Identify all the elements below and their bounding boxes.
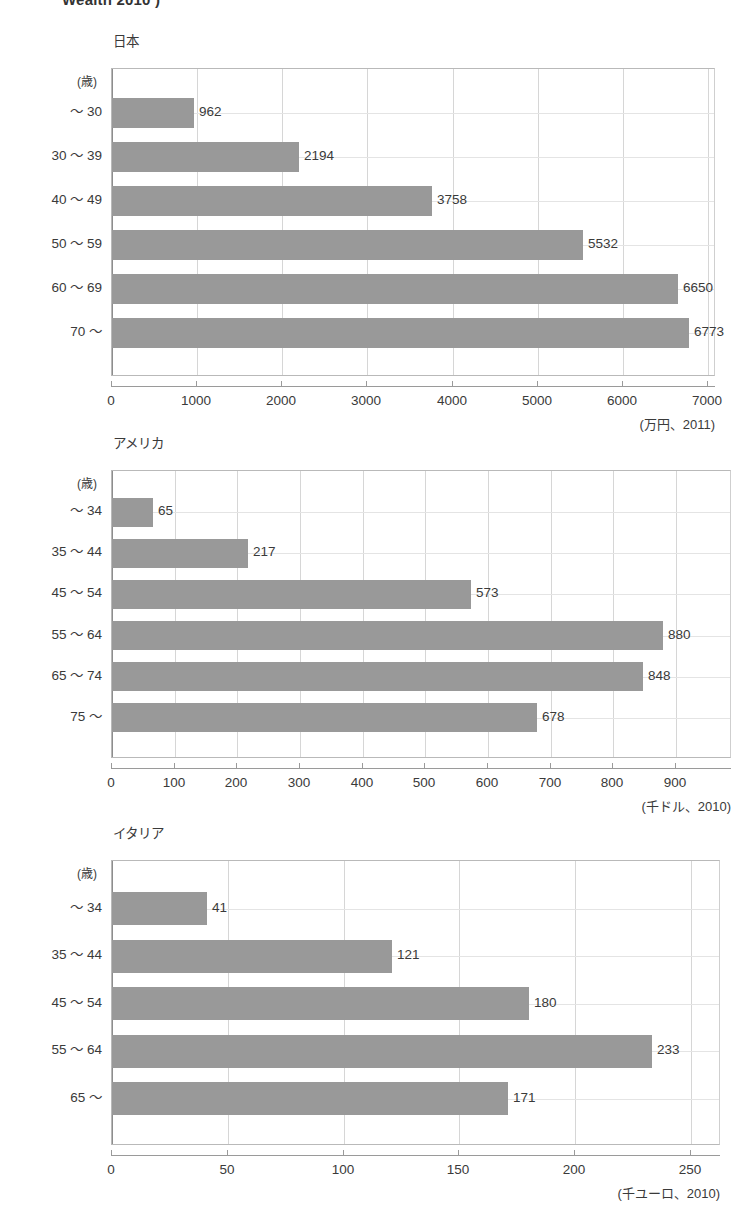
bar bbox=[112, 1082, 508, 1115]
x-axis-tick bbox=[111, 763, 112, 768]
bar-value-label: 217 bbox=[253, 545, 276, 559]
x-axis-tick bbox=[487, 763, 488, 768]
bar bbox=[112, 1035, 652, 1068]
category-label: 45 ～ 54 bbox=[0, 586, 102, 600]
x-axis-tick bbox=[550, 763, 551, 768]
bar bbox=[112, 230, 583, 260]
x-axis-tick bbox=[537, 381, 538, 386]
x-axis-tick bbox=[196, 381, 197, 386]
chart-title: アメリカ bbox=[113, 432, 164, 452]
x-axis-tick-label: 7000 bbox=[667, 394, 741, 408]
x-axis-tick bbox=[675, 763, 676, 768]
bar-value-label: 180 bbox=[534, 996, 557, 1010]
x-axis-tick-label: 100 bbox=[303, 1163, 383, 1177]
bar-value-label: 41 bbox=[212, 901, 227, 915]
category-label: 40 ～ 49 bbox=[0, 193, 102, 207]
x-axis-tick bbox=[236, 763, 237, 768]
category-label: 45 ～ 54 bbox=[0, 996, 102, 1010]
x-axis-tick-label: 150 bbox=[418, 1163, 498, 1177]
x-axis-tick bbox=[424, 763, 425, 768]
bar bbox=[112, 539, 248, 568]
x-axis-tick bbox=[343, 1150, 344, 1155]
bar-value-label: 6773 bbox=[694, 325, 724, 339]
x-axis-tick-label: 50 bbox=[187, 1163, 267, 1177]
page-header-title: Wealth 2010 ) bbox=[62, 0, 160, 8]
category-label: ～ 34 bbox=[0, 901, 102, 915]
category-label: 65 ～ bbox=[0, 1091, 102, 1105]
x-axis-tick bbox=[574, 1150, 575, 1155]
bar-value-label: 678 bbox=[542, 710, 565, 724]
y-axis-unit-label: (歳) bbox=[0, 868, 97, 880]
x-axis-tick bbox=[690, 1150, 691, 1155]
bar bbox=[112, 892, 207, 925]
x-axis-tick bbox=[281, 381, 282, 386]
x-axis-tick bbox=[366, 381, 367, 386]
category-label: ～ 34 bbox=[0, 504, 102, 518]
x-axis-tick-label: 250 bbox=[650, 1163, 730, 1177]
category-label: 65 ～ 74 bbox=[0, 669, 102, 683]
x-axis-tick bbox=[299, 763, 300, 768]
bar-value-label: 880 bbox=[668, 628, 691, 642]
x-axis-line bbox=[111, 1155, 720, 1156]
bar-value-label: 848 bbox=[648, 669, 671, 683]
gridline bbox=[575, 861, 576, 1144]
category-label: 50 ～ 59 bbox=[0, 237, 102, 251]
x-axis-tick bbox=[111, 381, 112, 386]
x-axis-tick-label: 1000 bbox=[156, 394, 236, 408]
bar bbox=[112, 498, 153, 527]
bar-value-label: 962 bbox=[199, 105, 222, 119]
bar-value-label: 6650 bbox=[683, 281, 713, 295]
bar-value-label: 3758 bbox=[437, 193, 467, 207]
gridline bbox=[613, 471, 614, 757]
gridline bbox=[676, 471, 677, 757]
chart-title: イタリア bbox=[113, 822, 164, 842]
x-axis-line bbox=[111, 386, 715, 387]
bar-value-label: 573 bbox=[476, 586, 499, 600]
bar bbox=[112, 274, 678, 304]
x-axis-tick bbox=[612, 763, 613, 768]
x-axis-tick bbox=[227, 1150, 228, 1155]
gridline bbox=[691, 861, 692, 1144]
category-label: 35 ～ 44 bbox=[0, 948, 102, 962]
category-label: 60 ～ 69 bbox=[0, 281, 102, 295]
x-axis-tick-label: 0 bbox=[71, 394, 151, 408]
x-axis-tick-label: 5000 bbox=[497, 394, 577, 408]
bar bbox=[112, 186, 432, 216]
category-label: 70 ～ bbox=[0, 325, 102, 339]
y-axis-unit-label: (歳) bbox=[0, 76, 97, 88]
x-axis-tick-label: 0 bbox=[71, 1163, 151, 1177]
x-axis-tick-label: 6000 bbox=[582, 394, 662, 408]
bar bbox=[112, 318, 689, 348]
bar bbox=[112, 987, 529, 1020]
axis-unit-note: (万円、2011) bbox=[0, 414, 715, 433]
category-label: 30 ～ 39 bbox=[0, 149, 102, 163]
row-gridline bbox=[112, 512, 730, 513]
x-axis-tick bbox=[622, 381, 623, 386]
x-axis-tick bbox=[111, 1150, 112, 1155]
bar bbox=[112, 940, 392, 973]
x-axis-tick bbox=[452, 381, 453, 386]
bar-value-label: 233 bbox=[657, 1043, 680, 1057]
plot-area bbox=[111, 860, 720, 1145]
x-axis-tick bbox=[174, 763, 175, 768]
category-label: 35 ～ 44 bbox=[0, 545, 102, 559]
axis-unit-note: (千ユーロ、2010) bbox=[0, 1183, 720, 1202]
bar bbox=[112, 142, 299, 172]
bar-value-label: 5532 bbox=[588, 237, 618, 251]
x-axis-tick-label: 4000 bbox=[412, 394, 492, 408]
y-axis-unit-label: (歳) bbox=[0, 478, 97, 490]
chart-title: 日本 bbox=[113, 30, 139, 50]
x-axis-tick bbox=[707, 381, 708, 386]
x-axis-line bbox=[111, 768, 731, 769]
bar bbox=[112, 580, 471, 609]
bar-value-label: 65 bbox=[158, 504, 173, 518]
bar bbox=[112, 98, 194, 128]
x-axis-tick-label: 900 bbox=[635, 776, 715, 790]
x-axis-tick bbox=[458, 1150, 459, 1155]
x-axis-tick-label: 2000 bbox=[241, 394, 321, 408]
bar-value-label: 121 bbox=[397, 948, 420, 962]
bar-value-label: 171 bbox=[513, 1091, 536, 1105]
plot-area bbox=[111, 470, 731, 758]
axis-unit-note: (千ドル、2010) bbox=[0, 796, 731, 815]
category-label: ～ 30 bbox=[0, 105, 102, 119]
